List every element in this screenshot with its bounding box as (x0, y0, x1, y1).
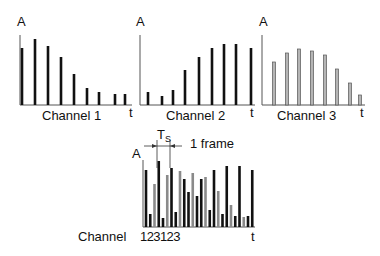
multiplexed-plot (143, 160, 255, 227)
sample-bar (157, 161, 160, 227)
multiplexed-y-axis-label: A (132, 146, 141, 161)
sample-bar (204, 177, 207, 227)
channel-2-x-axis-label: t (250, 105, 254, 120)
sample-bar (170, 168, 173, 227)
sample-bar (311, 51, 314, 105)
channel-1-x-axis-label: t (129, 105, 133, 120)
sample-bar (183, 179, 186, 227)
channel-2-plot (140, 35, 255, 105)
sample-bar (324, 55, 327, 105)
ts-arrow-left-icon (152, 144, 157, 148)
channel-3-plot (262, 35, 365, 105)
sample-bar (198, 57, 201, 105)
channel-sequence-label: 123123 (140, 229, 180, 244)
channel-3-x-axis-label: t (360, 105, 364, 120)
channel-1-plot (20, 35, 132, 105)
sample-bar (217, 191, 220, 227)
sample-bar (247, 216, 250, 227)
sample-bar (149, 214, 152, 227)
sample-bar (235, 44, 238, 105)
sample-bar (60, 57, 63, 105)
sample-bar (213, 170, 216, 227)
sample-bar (273, 62, 276, 105)
sample-bar (161, 96, 164, 105)
sample-bar (21, 48, 24, 105)
channel-2-y-axis-label: A (136, 14, 145, 29)
sample-bar (242, 217, 245, 227)
sample-bar (234, 216, 237, 227)
channel-3-title: Channel 3 (277, 108, 336, 123)
sample-bar (86, 88, 89, 105)
sample-bar (187, 192, 190, 227)
sample-bar (349, 83, 352, 105)
sample-bar (225, 166, 228, 227)
tdm-diagram: A A A t t t Channel 1 Channel 2 Channel … (0, 0, 380, 256)
sample-bar (200, 179, 203, 227)
sample-bar (238, 166, 241, 227)
sample-bar (179, 171, 182, 227)
frame-label: 1 frame (190, 136, 234, 151)
sample-bar (184, 70, 187, 105)
sample-bar (208, 210, 211, 227)
sample-bar (211, 48, 214, 105)
sample-bar (147, 92, 150, 105)
channel-2-title: Channel 2 (166, 108, 225, 123)
sample-bar (47, 46, 50, 105)
channel-3-y-axis-label: A (259, 14, 268, 29)
sample-bar (230, 205, 233, 227)
sample-bar (196, 196, 199, 227)
sample-bar (34, 39, 37, 105)
sample-bar (223, 44, 226, 105)
sample-bar (286, 53, 289, 105)
ts-label: TS (157, 127, 171, 144)
sample-bar (166, 175, 169, 227)
channel-row-label: Channel (78, 229, 127, 244)
sample-bar (73, 74, 76, 105)
ts-arrow-right-icon (170, 144, 175, 148)
sample-bar (298, 49, 301, 105)
sample-bar (98, 92, 101, 105)
sample-bar (114, 94, 117, 105)
channel-1-y-axis-label: A (17, 14, 26, 29)
sample-bar (251, 170, 254, 227)
sample-bar (124, 94, 127, 105)
sample-bar (221, 214, 224, 227)
sample-bar (336, 69, 339, 105)
multiplexed-x-axis-label: t (251, 229, 255, 244)
sample-bar (172, 90, 175, 105)
sample-bar (162, 218, 165, 227)
sample-bar (250, 48, 253, 105)
sample-bar (359, 95, 362, 105)
sample-bar (191, 173, 194, 227)
channel-1-title: Channel 1 (42, 108, 101, 123)
sample-bar (153, 184, 156, 227)
sample-bar (145, 170, 148, 227)
sample-bar (174, 212, 177, 227)
